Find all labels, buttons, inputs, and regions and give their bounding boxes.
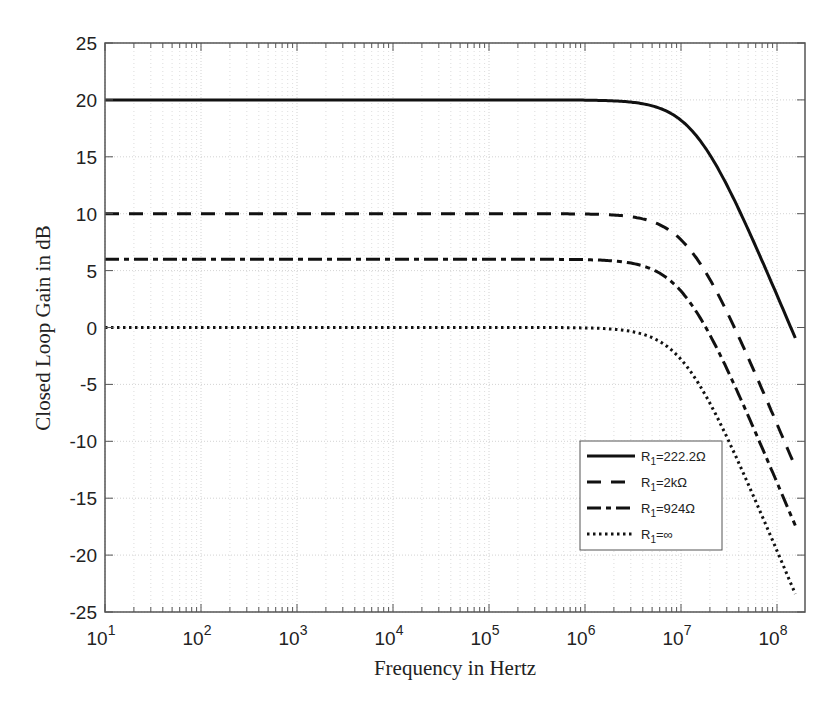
x-tick-label: 104 [375, 622, 404, 649]
y-tick-label: -5 [80, 374, 97, 395]
y-tick-label: 0 [86, 318, 97, 339]
x-tick-label: 105 [471, 622, 500, 649]
y-tick-label: -20 [70, 545, 97, 566]
x-tick-label: 101 [87, 622, 116, 649]
axis-ticks: 1011021031041051061071082520151050-5-10-… [70, 33, 805, 649]
x-tick-label: 108 [759, 622, 788, 649]
bode-chart: 1011021031041051061071082520151050-5-10-… [0, 0, 835, 716]
x-axis-label: Frequency in Hertz [374, 656, 536, 680]
legend: R1=222.2ΩR1=2kΩR1=924ΩR1=∞ [580, 441, 722, 550]
x-tick-label: 103 [279, 622, 308, 649]
y-tick-label: 20 [76, 90, 97, 111]
x-tick-label: 106 [567, 622, 596, 649]
y-tick-label: 15 [76, 147, 97, 168]
y-tick-label: 5 [86, 261, 97, 282]
series-dashed [105, 214, 795, 467]
y-axis-label: Closed Loop Gain in dB [31, 225, 55, 430]
series-solid [105, 100, 795, 338]
x-tick-label: 107 [663, 622, 692, 649]
y-tick-label: -25 [70, 602, 97, 623]
x-tick-label: 102 [183, 622, 212, 649]
y-tick-label: -15 [70, 488, 97, 509]
y-tick-label: 10 [76, 204, 97, 225]
y-tick-label: -10 [70, 431, 97, 452]
y-tick-label: 25 [76, 33, 97, 54]
